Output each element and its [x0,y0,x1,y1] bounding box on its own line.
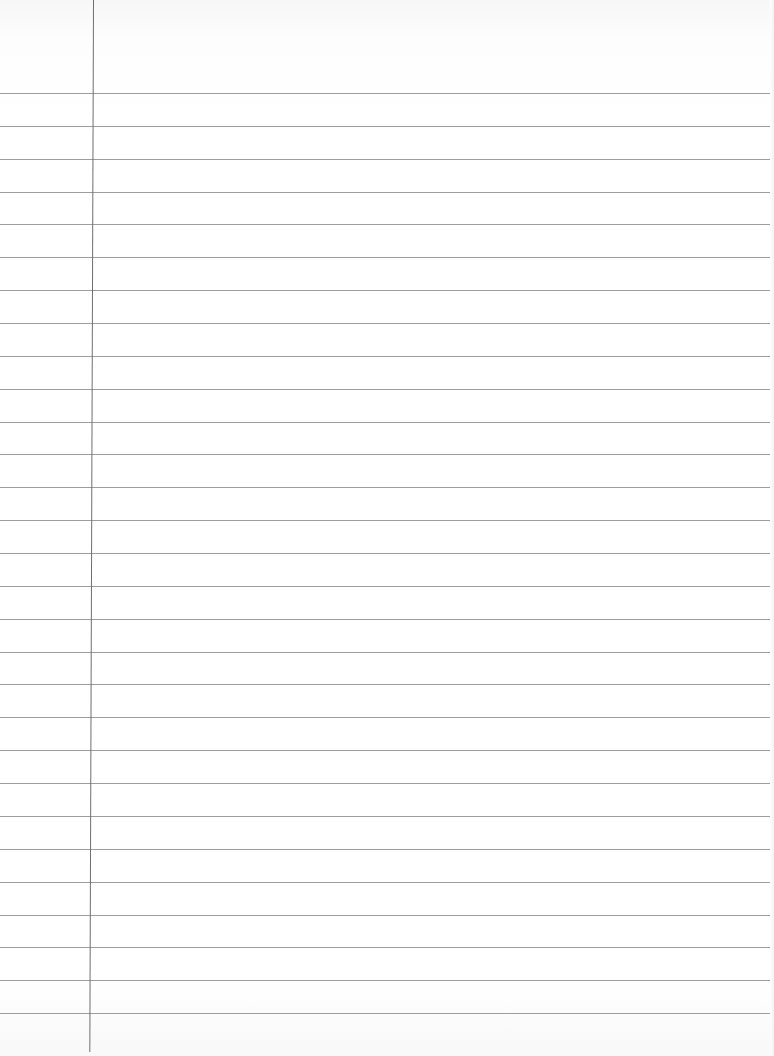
ruled-line [0,619,770,620]
ruled-line [0,717,770,718]
ruled-line [0,487,770,488]
page-edge [770,0,774,1056]
ruled-line [0,126,770,127]
ruled-line [0,684,770,685]
ruled-line [0,454,770,455]
ruled-line [0,750,770,751]
ruled-line [0,93,770,94]
ruled-line [0,192,770,193]
ruled-line [0,980,770,981]
ruled-line [0,290,770,291]
ruled-line [0,783,770,784]
ruled-line [0,422,770,423]
ruled-line [0,553,770,554]
ruled-line [0,915,770,916]
ruled-line [0,947,770,948]
ruled-line [0,586,770,587]
ruled-line [0,1013,770,1014]
ruled-line [0,520,770,521]
ruled-line [0,849,770,850]
ruled-line [0,816,770,817]
ruled-line [0,224,770,225]
ruled-line [0,882,770,883]
ruled-line [0,652,770,653]
ruled-line [0,257,770,258]
ruled-line [0,323,770,324]
lined-paper-page [0,0,774,1056]
ruled-line [0,356,770,357]
ruled-line [0,389,770,390]
ruled-line [0,159,770,160]
margin-line [89,0,94,1052]
